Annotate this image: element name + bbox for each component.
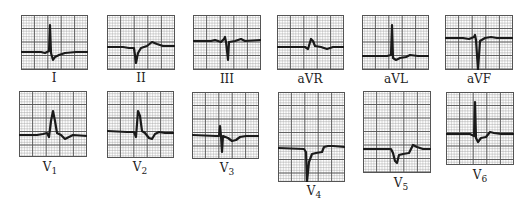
ecg-panel-ii [107,15,175,70]
ecg-panel-v1 [19,91,87,157]
lead-label-v4: V4 [294,184,334,200]
ecg-grid [19,91,87,157]
ecg-grid [107,91,174,158]
ecg-grid [446,92,514,165]
ecg-trace [107,42,175,63]
lead-label-v3: V3 [207,161,247,177]
ecg-trace [193,37,261,60]
ecg-grid [193,15,261,70]
lead-label-avr: aVR [290,72,330,86]
ecg-panel-avf [445,15,513,70]
ecg-grid [363,91,431,173]
ecg-panel-v5 [363,91,431,173]
ecg-grid [107,15,175,70]
ecg-trace [445,35,513,70]
lead-label-v5: V5 [381,176,421,192]
ecg-grid [278,92,345,182]
lead-label-ii: II [121,71,161,85]
ecg-panel-avl [362,15,429,70]
lead-label-avl: aVL [376,72,416,86]
ecg-panel-v4 [278,92,345,182]
lead-label-i: I [34,71,74,85]
ecg-trace [21,25,88,60]
lead-label-avf: aVF [459,72,499,86]
ecg-grid [277,15,344,70]
ecg-panel-iii [193,15,261,70]
ecg-panel-avr [277,15,344,70]
lead-label-iii: III [207,72,247,86]
lead-label-v2: V2 [120,160,160,176]
ecg-panel-v3 [192,92,259,159]
ecg-grid [21,15,88,70]
ecg-grid [192,92,259,159]
ecg-panel-v6 [446,92,514,165]
lead-label-v1: V1 [30,160,70,176]
ecg-grid [445,15,513,70]
lead-label-v6: V6 [460,168,500,184]
ecg-grid [362,15,429,70]
ecg-panel-v2 [107,91,174,158]
ecg-panel-i [21,15,88,70]
ecg-trace [362,25,429,60]
